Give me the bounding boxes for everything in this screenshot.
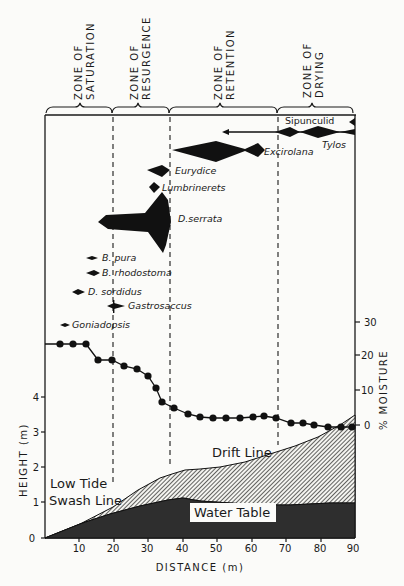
zone-label-saturation-1: ZONE OF xyxy=(73,44,84,100)
y2tick-10: 10 xyxy=(361,385,374,396)
x-axis-distance: 10 20 30 40 50 60 70 80 90 DISTANCE (m) xyxy=(73,538,360,573)
x-axis-label: DISTANCE (m) xyxy=(156,562,245,573)
zone-label-drying-1: ZONE OF xyxy=(302,42,313,98)
label-goniadopsis: Goniadopsis xyxy=(72,319,130,330)
ytick-3: 3 xyxy=(33,427,39,438)
y-axis-label: HEIGHT (m) xyxy=(18,423,29,497)
y2tick-0: 0 xyxy=(364,420,370,431)
eurydice-range xyxy=(147,165,170,177)
beach-zonation-chart: ZONE OF SATURATION ZONE OF RESURGENCE ZO… xyxy=(0,0,404,586)
excirolana-range xyxy=(172,141,265,162)
d-serrata-range xyxy=(98,192,171,253)
zone-label-retention-1: ZONE OF xyxy=(213,44,224,100)
zone-label-resurgence-2: RESURGENCE xyxy=(141,16,152,100)
zone-headers: ZONE OF SATURATION ZONE OF RESURGENCE ZO… xyxy=(73,16,325,100)
label-lumbrinerets: Lumbrinerets xyxy=(162,182,225,193)
zone-label-retention-2: RETENTION xyxy=(225,29,236,100)
sipunculid-marker xyxy=(349,118,355,126)
label-drift-line: Drift Line xyxy=(212,445,272,460)
lumbrinerets-range xyxy=(149,182,160,193)
label-d-sordidus: D. sordidus xyxy=(88,286,142,297)
b-rhodostoma-range xyxy=(86,270,100,276)
xtick-40: 40 xyxy=(176,543,189,554)
xtick-60: 60 xyxy=(245,543,258,554)
label-sipunculid: Sipunculid xyxy=(285,115,334,126)
label-low-tide: Low Tide xyxy=(50,476,107,491)
label-water-table: Water Table xyxy=(194,505,270,520)
b-pura-range xyxy=(86,256,98,260)
xtick-90: 90 xyxy=(347,543,360,554)
xtick-10: 10 xyxy=(73,543,86,554)
goniadopsis-range xyxy=(60,323,70,327)
label-eurydice: Eurydice xyxy=(175,165,216,176)
label-excirolana: Excirolana xyxy=(264,146,314,157)
label-tylos: Tylos xyxy=(322,139,346,150)
y2-axis-moisture: 0 10 20 30 % MOISTURE xyxy=(355,317,389,431)
label-b-pura: B. pura xyxy=(102,252,137,263)
zone-label-resurgence-1: ZONE OF xyxy=(129,44,140,100)
tylos-range xyxy=(275,126,355,138)
d-sordidus-range xyxy=(72,289,85,295)
y2tick-30: 30 xyxy=(364,317,377,328)
xtick-30: 30 xyxy=(141,543,154,554)
zone-braces xyxy=(46,103,353,113)
zone-label-saturation-2: SATURATION xyxy=(85,22,96,100)
y2-axis-label: % MOISTURE xyxy=(378,350,389,430)
xtick-80: 80 xyxy=(314,543,327,554)
gastrosaccus-range xyxy=(107,303,125,309)
zone-label-drying-2: DRYING xyxy=(314,51,325,98)
xtick-20: 20 xyxy=(107,543,120,554)
ytick-0: 0 xyxy=(29,533,35,544)
ytick-2: 2 xyxy=(33,462,39,473)
label-d-serrata: D.serrata xyxy=(178,213,222,224)
moisture-series xyxy=(45,340,356,430)
ytick-1: 1 xyxy=(33,497,39,508)
label-gastrosaccus: Gastrosaccus xyxy=(128,300,192,311)
xtick-70: 70 xyxy=(279,543,292,554)
label-b-rhodostoma: B. rhodostoma xyxy=(102,267,172,278)
xtick-50: 50 xyxy=(210,543,223,554)
y2tick-20: 20 xyxy=(361,350,374,361)
y-axis-height: 0 1 2 3 4 HEIGHT (m) xyxy=(18,392,45,544)
ytick-4: 4 xyxy=(33,392,39,403)
label-swash-line: Swash Line xyxy=(49,493,122,508)
